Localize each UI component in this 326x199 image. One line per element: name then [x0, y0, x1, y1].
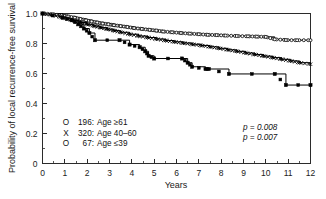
- y-tick-label: 0.8: [26, 39, 38, 49]
- marker-open-circle: [107, 23, 110, 26]
- marker-open-circle: [155, 29, 158, 32]
- legend-count-1: 320:: [78, 129, 94, 138]
- x-axis-title: Years: [165, 180, 188, 190]
- marker-open-circle: [246, 35, 249, 38]
- marker-filled-square: [88, 31, 91, 34]
- marker-open-circle: [230, 34, 233, 37]
- x-tick-label: 7: [196, 168, 201, 178]
- marker-open-circle: [175, 31, 178, 34]
- marker-filled-square: [197, 66, 200, 69]
- marker-open-circle: [193, 32, 196, 35]
- marker-open-circle: [251, 35, 254, 38]
- marker-open-circle: [296, 39, 299, 42]
- marker-x-cross: [204, 44, 207, 47]
- marker-filled-square: [180, 57, 183, 60]
- marker-filled-square: [77, 23, 80, 26]
- marker-filled-square: [218, 70, 221, 73]
- marker-filled-square: [106, 39, 109, 42]
- y-axis-ticks: [43, 14, 48, 164]
- y-tick-label: 1.0: [26, 9, 38, 19]
- marker-open-circle: [264, 35, 267, 38]
- kaplan-meier-plot: 0123456789101112 00.20.40.60.81.0 Years …: [0, 0, 326, 199]
- marker-open-circle: [224, 34, 227, 37]
- legend-count-0: 196:: [78, 118, 94, 127]
- figure-container: 0123456789101112 00.20.40.60.81.0 Years …: [0, 0, 326, 199]
- marker-open-circle: [184, 32, 187, 35]
- marker-open-circle: [241, 35, 244, 38]
- x-tick-label: 9: [241, 168, 246, 178]
- marker-open-circle: [202, 33, 205, 36]
- marker-filled-square: [41, 12, 44, 15]
- marker-filled-square: [204, 67, 207, 70]
- marker-open-circle: [215, 34, 218, 37]
- marker-open-circle: [220, 34, 223, 37]
- marker-open-circle: [302, 39, 305, 42]
- marker-open-circle: [171, 31, 174, 34]
- marker-filled-square: [153, 57, 156, 60]
- x-axis-tick-labels: 0123456789101112: [40, 168, 315, 178]
- marker-filled-square: [279, 78, 282, 81]
- x-tick-label: 10: [261, 168, 271, 178]
- y-tick-label: 0.6: [26, 69, 38, 79]
- x-tick-label: 8: [219, 168, 224, 178]
- marker-open-circle: [188, 32, 191, 35]
- legend-symbol-1: X: [63, 129, 69, 138]
- marker-filled-square: [51, 14, 54, 17]
- marker-filled-square: [73, 21, 76, 24]
- marker-filled-square: [297, 84, 300, 87]
- legend-label-0: Age ≥61: [97, 118, 128, 127]
- y-tick-label: 0.4: [26, 99, 38, 109]
- y-axis-tick-labels: 00.20.40.60.81.0: [26, 9, 38, 169]
- marker-open-circle: [126, 26, 129, 29]
- marker-open-circle: [166, 30, 169, 33]
- marker-filled-square: [191, 65, 194, 68]
- marker-open-circle: [90, 20, 93, 23]
- marker-filled-square: [118, 39, 121, 42]
- marker-filled-square: [144, 50, 147, 53]
- x-tick-label: 12: [306, 168, 316, 178]
- x-tick-label: 3: [107, 168, 112, 178]
- pvalue-second: p = 0.007: [242, 133, 278, 142]
- curve-markers: [41, 12, 312, 87]
- x-tick-label: 1: [62, 168, 67, 178]
- x-tick-label: 2: [85, 168, 90, 178]
- marker-open-circle: [140, 27, 143, 30]
- marker-filled-square: [250, 73, 253, 76]
- marker-open-circle: [269, 37, 272, 40]
- marker-filled-square: [227, 72, 230, 75]
- x-tick-label: 11: [284, 168, 293, 178]
- marker-filled-square: [167, 57, 170, 60]
- x-axis-ticks: [43, 159, 311, 164]
- marker-filled-square: [147, 54, 150, 57]
- marker-filled-square: [93, 39, 96, 42]
- marker-filled-square: [273, 72, 276, 75]
- marker-filled-square: [133, 45, 136, 48]
- marker-filled-square: [61, 16, 64, 19]
- y-tick-label: 0.2: [26, 129, 38, 139]
- legend-symbol-0: O: [63, 118, 69, 127]
- marker-x-cross: [168, 39, 171, 42]
- marker-filled-square: [82, 27, 85, 30]
- x-tick-label: 6: [174, 168, 179, 178]
- marker-filled-square: [91, 35, 94, 38]
- marker-filled-square: [207, 67, 210, 70]
- marker-open-circle: [148, 28, 151, 31]
- marker-filled-square: [138, 46, 141, 49]
- marker-open-circle: [235, 35, 238, 38]
- marker-open-circle: [273, 38, 276, 41]
- marker-open-circle: [309, 39, 312, 42]
- marker-open-circle: [284, 39, 287, 42]
- x-tick-label: 5: [152, 168, 157, 178]
- marker-filled-square: [128, 43, 131, 46]
- marker-open-circle: [101, 22, 104, 25]
- marker-filled-square: [70, 19, 73, 22]
- marker-filled-square: [284, 83, 287, 86]
- marker-open-circle: [279, 38, 282, 41]
- marker-open-circle: [290, 39, 293, 42]
- marker-open-circle: [96, 21, 99, 24]
- y-axis-title: Probability of local recurrence-free sur…: [7, 3, 17, 173]
- marker-open-circle: [206, 33, 209, 36]
- marker-filled-square: [123, 41, 126, 44]
- marker-open-circle: [133, 27, 136, 30]
- pvalue-first: p = 0.008: [242, 123, 278, 132]
